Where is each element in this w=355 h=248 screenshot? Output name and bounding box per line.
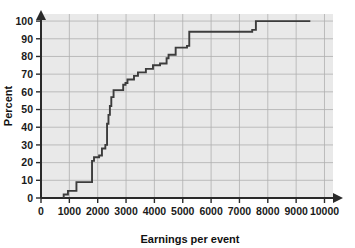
ecdf-chart-svg: 0100020003000400050006000700080009000100… [0,0,355,248]
chart-figure: 0100020003000400050006000700080009000100… [0,0,355,248]
x-tick-label: 6000 [199,205,223,217]
x-tick-label: 5000 [171,205,195,217]
x-tick-label: 0 [38,205,44,217]
y-tick-label: 100 [15,15,33,27]
y-tick-label: 0 [27,192,33,204]
x-tick-label: 7000 [228,205,252,217]
y-tick-label: 60 [21,86,33,98]
x-tick-label: 1000 [58,205,82,217]
x-tick-label: 3000 [114,205,138,217]
x-tick-label: 8000 [256,205,280,217]
plot-background [41,14,333,198]
y-tick-label: 70 [21,68,33,80]
x-axis-title: Earnings per event [140,233,239,245]
x-tick-label: 10000 [310,205,339,217]
y-axis-title: Percent [2,85,14,126]
x-tick-label: 2000 [86,205,110,217]
y-tick-label: 10 [21,174,33,186]
y-tick-label: 50 [21,103,33,115]
x-tick-label: 4000 [143,205,167,217]
y-tick-label: 30 [21,139,33,151]
y-tick-label: 40 [21,121,33,133]
y-tick-label: 80 [21,50,33,62]
y-tick-label: 20 [21,156,33,168]
x-tick-label: 9000 [284,205,308,217]
y-tick-label: 90 [21,33,33,45]
